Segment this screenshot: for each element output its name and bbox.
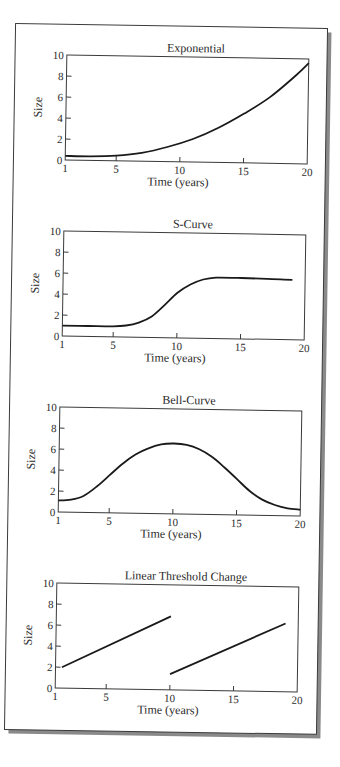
x-tick-label: 15 [228,693,240,705]
y-tick-label: 10 [46,401,58,413]
figure-canvas: Exponential Time (years) Size 0246810151… [0,0,340,767]
x-axis-label: Time (years) [140,526,201,541]
x-axis-label: Time (years) [137,702,198,717]
x-tick-label: 20 [298,342,310,354]
chart-title: S-Curve [173,217,213,232]
y-tick-label: 4 [47,640,53,652]
y-tick-label: 2 [50,485,56,497]
y-tick-label: 4 [57,112,63,124]
y-axis-label: Size [24,449,38,470]
x-axis-label: Time (years) [147,174,208,189]
y-tick-label: 10 [53,49,65,61]
x-tick-label: 10 [167,516,179,528]
y-axis-label: Size [28,273,42,294]
x-tick-label: 20 [301,166,313,178]
chart-title: Bell-Curve [162,393,216,408]
y-tick-label: 4 [54,288,60,300]
y-tick-label: 6 [55,267,61,279]
y-tick-label: 10 [43,577,55,589]
x-tick-label: 1 [59,338,65,350]
x-axis-label: Time (years) [144,350,205,365]
y-tick-label: 6 [48,619,54,631]
y-tick-label: 4 [50,464,56,476]
y-tick-label: 8 [48,598,54,610]
x-tick-label: 20 [294,518,306,530]
y-tick-label: 6 [58,91,64,103]
y-tick-label: 2 [54,309,60,321]
x-tick-label: 10 [171,340,183,352]
x-tick-label: 5 [106,515,112,527]
x-tick-label: 20 [291,694,303,706]
x-tick-label: 1 [52,690,58,702]
x-tick-label: 15 [238,165,250,177]
y-tick-label: 10 [50,225,62,237]
x-tick-label: 15 [235,341,247,353]
x-tick-label: 10 [174,164,186,176]
x-tick-label: 1 [62,162,68,174]
y-tick-label: 2 [57,133,63,145]
y-tick-label: 8 [51,422,57,434]
x-tick-label: 10 [164,692,176,704]
x-tick-label: 5 [113,163,119,175]
y-tick-label: 8 [58,70,64,82]
x-tick-label: 1 [55,514,61,526]
y-axis-label: Size [31,97,45,118]
chart-title: Linear Threshold Change [125,568,248,584]
x-tick-label: 5 [110,339,116,351]
chart-title: Exponential [167,41,226,56]
figure-page: Exponential Time (years) Size 0246810151… [0,0,340,767]
x-tick-label: 15 [231,517,243,529]
y-axis-label: Size [21,625,35,646]
y-tick-label: 8 [55,246,61,258]
x-tick-label: 5 [103,691,109,703]
y-tick-label: 2 [47,661,53,673]
y-tick-label: 6 [51,443,57,455]
